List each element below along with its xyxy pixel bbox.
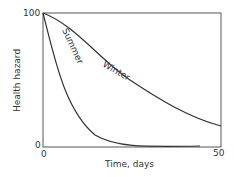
y-tick-0: 0: [35, 140, 41, 150]
y-tick-100: 100: [23, 8, 40, 18]
winter-label: Winter: [101, 59, 132, 83]
x-tick-50: 50: [213, 148, 224, 158]
x-tick-0: 0: [41, 149, 47, 159]
summer-label: Summer: [60, 27, 85, 66]
chart-canvas: Summer Winter Health hazard: [0, 0, 234, 177]
x-axis-label: Time, days: [105, 159, 154, 169]
y-axis-label: Health hazard: [12, 49, 22, 112]
